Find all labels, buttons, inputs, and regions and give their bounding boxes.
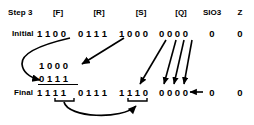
arrow-s-initial-to-augend bbox=[82, 38, 124, 64]
final-value-f: 1 1 1 1 bbox=[37, 87, 66, 98]
initial-value-sio3: 0 bbox=[199, 28, 225, 39]
bracket-s-final bbox=[128, 98, 147, 101]
initial-value-r: 0 1 1 1 bbox=[78, 28, 107, 39]
arrow-f-final-to-s-final bbox=[64, 102, 136, 115]
sum-rule-line bbox=[38, 84, 78, 85]
arrow-q-shift-2 bbox=[164, 40, 176, 84]
column-header-q: [Q] bbox=[160, 8, 202, 18]
arrow-q-shift-4 bbox=[184, 40, 192, 84]
initial-value-s: 1 0 0 0 bbox=[119, 28, 148, 39]
final-value-q: 0 0 0 0 bbox=[159, 87, 188, 98]
column-header-f: [F] bbox=[37, 8, 79, 18]
arrow-q-shift-3 bbox=[174, 40, 184, 84]
arrow-q-shift-1 bbox=[140, 40, 166, 84]
final-value-sio3-input: 0 bbox=[205, 87, 219, 98]
initial-value-q: 0 0 0 0 bbox=[159, 28, 188, 39]
column-header-sio3: SIO3 bbox=[199, 8, 225, 18]
initial-value-z: 0 bbox=[231, 28, 249, 39]
figure-step3-diagram: Step 3 [F] [R] [S] [Q] SIO3 Z Initial 1 … bbox=[0, 0, 254, 125]
final-value-r: 0 1 1 1 bbox=[78, 87, 107, 98]
column-header-r: [R] bbox=[78, 8, 120, 18]
step-label: Step 3 bbox=[8, 8, 33, 18]
final-value-s: 1 1 1 0 bbox=[119, 87, 148, 98]
row-label-final: Final bbox=[14, 88, 33, 98]
work-operand-top: 1 0 0 0 bbox=[39, 60, 68, 71]
row-label-initial: Initial bbox=[12, 29, 34, 39]
initial-value-f: 1 1 0 0 bbox=[37, 28, 66, 39]
final-value-z: 0 bbox=[231, 87, 249, 98]
column-header-s: [S] bbox=[120, 8, 162, 18]
column-header-z: Z bbox=[231, 8, 249, 18]
work-operand-bottom: 0 1 1 1 bbox=[39, 73, 68, 84]
bracket-f-final bbox=[55, 98, 74, 101]
